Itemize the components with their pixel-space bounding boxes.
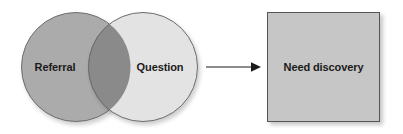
- arrow-right-icon: [206, 59, 262, 75]
- diagram-canvas: Referral Question Need discovery: [0, 0, 403, 134]
- outcome-label-need-discovery: Need discovery: [267, 62, 380, 73]
- venn-label-question: Question: [126, 62, 194, 73]
- venn-label-referral: Referral: [21, 62, 89, 73]
